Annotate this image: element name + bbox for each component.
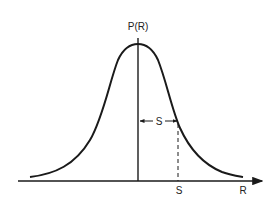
spread-bracket-label: S — [156, 116, 163, 127]
bell-curve — [30, 44, 243, 177]
y-axis-label: P(R) — [128, 21, 149, 32]
bell-curve-diagram: P(R) S S R — [0, 0, 273, 202]
x-axis-label: R — [239, 185, 246, 196]
spread-tick-label: S — [176, 185, 183, 196]
